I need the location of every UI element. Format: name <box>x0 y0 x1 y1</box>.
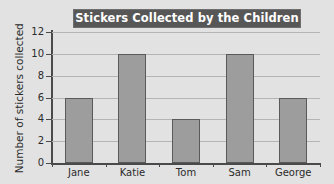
x-tick-mark <box>52 163 53 167</box>
gridline <box>52 32 320 33</box>
x-tick-label: Katie <box>120 166 145 180</box>
x-tick-label: Tom <box>176 166 196 180</box>
x-tick-mark <box>159 163 160 167</box>
chart-title-banner: Stickers Collected by the Children <box>73 9 301 28</box>
bar-chart-figure: Stickers Collected by the Children Numbe… <box>0 0 334 184</box>
y-tick-mark <box>46 98 52 99</box>
y-tick-mark <box>46 54 52 55</box>
y-tick-mark <box>46 141 52 142</box>
bar <box>172 119 200 163</box>
x-axis-line <box>51 163 321 165</box>
gridline <box>52 76 320 77</box>
bar <box>226 54 254 163</box>
y-tick-label: 10 <box>26 49 44 59</box>
bar <box>279 98 307 164</box>
y-tick-label: 0 <box>26 158 44 168</box>
x-axis-tick-labels: JaneKatieTomSamGeorge <box>52 166 320 182</box>
y-tick-label: 2 <box>26 136 44 146</box>
y-tick-label: 4 <box>26 114 44 124</box>
x-tick-mark <box>213 163 214 167</box>
y-tick-label: 12 <box>26 27 44 37</box>
y-tick-label: 6 <box>26 93 44 103</box>
x-tick-mark <box>106 163 107 167</box>
chart-title: Stickers Collected by the Children <box>75 13 299 25</box>
x-tick-label: Jane <box>68 166 90 180</box>
y-tick-mark <box>46 32 52 33</box>
x-tick-mark <box>320 163 321 167</box>
y-axis-tick-labels: 121086420 <box>26 0 44 184</box>
x-tick-label: George <box>275 166 311 180</box>
y-tick-label: 8 <box>26 71 44 81</box>
bar <box>65 98 93 164</box>
gridline <box>52 54 320 55</box>
y-tick-mark <box>46 76 52 77</box>
plot-area <box>52 32 320 163</box>
x-tick-mark <box>266 163 267 167</box>
x-tick-label: Sam <box>228 166 250 180</box>
y-axis-title-text: Number of stickers collected <box>14 23 25 173</box>
bar <box>118 54 146 163</box>
y-tick-mark <box>46 119 52 120</box>
